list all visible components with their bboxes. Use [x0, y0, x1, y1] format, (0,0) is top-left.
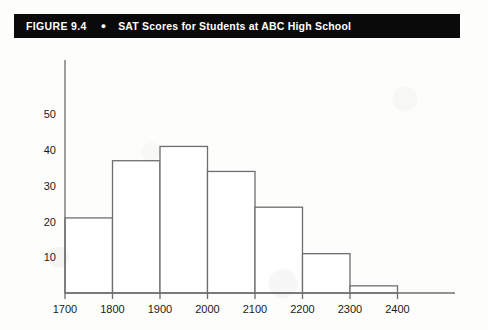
histogram-bar: [350, 286, 398, 293]
x-axis-tick-label: 2100: [232, 303, 278, 315]
x-axis-tick-label: 1700: [42, 303, 88, 315]
x-axis-tick-label: 1900: [137, 303, 183, 315]
y-axis-tick-label: 10: [30, 251, 56, 263]
x-axis-tick-label: 2000: [185, 303, 231, 315]
y-axis-tick-label: 20: [30, 216, 56, 228]
histogram-bar: [113, 161, 161, 293]
x-axis-tick-label: 2300: [327, 303, 373, 315]
y-axis-tick-label: 30: [30, 180, 56, 192]
histogram-bar: [303, 254, 351, 293]
x-axis-tick-label: 2400: [375, 303, 421, 315]
histogram-chart: [0, 0, 488, 330]
x-axis-tick-label: 2200: [280, 303, 326, 315]
x-axis-tick-marks: [65, 293, 398, 299]
histogram-bar: [255, 207, 303, 293]
histogram-bar: [208, 171, 256, 293]
histogram-bar: [160, 146, 208, 293]
y-axis-tick-label: 40: [30, 144, 56, 156]
y-axis-tick-label: 50: [30, 108, 56, 120]
x-axis-tick-label: 1800: [90, 303, 136, 315]
histogram-bar: [65, 218, 113, 293]
histogram-bars: [65, 146, 398, 293]
